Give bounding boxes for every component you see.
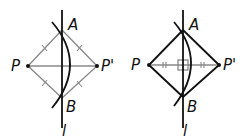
point-P bbox=[26, 64, 30, 68]
label-l: l bbox=[183, 122, 188, 140]
diagram-canvas: A B P P' l A B P P' l bbox=[0, 0, 251, 140]
perpendicular-bisector-diagrams: A B P P' l A B P P' l bbox=[0, 0, 251, 140]
label-P: P bbox=[11, 57, 21, 75]
label-A: A bbox=[67, 16, 78, 34]
point-P bbox=[147, 63, 151, 67]
label-B: B bbox=[187, 98, 197, 116]
label-P-prime: P' bbox=[223, 56, 236, 74]
label-B: B bbox=[66, 98, 76, 116]
right-figure: A B P P' l bbox=[131, 10, 236, 140]
label-l: l bbox=[62, 122, 67, 140]
left-figure: A B P P' l bbox=[11, 10, 114, 140]
label-P-prime: P' bbox=[101, 57, 114, 75]
label-A: A bbox=[188, 16, 199, 34]
point-P-prime bbox=[95, 64, 99, 68]
point-P-prime bbox=[217, 63, 221, 67]
label-P: P bbox=[131, 56, 141, 74]
